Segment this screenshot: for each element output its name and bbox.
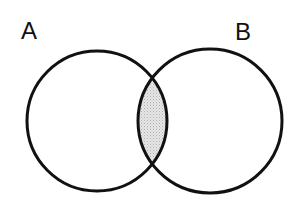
- set-b-label: B: [235, 18, 251, 45]
- venn-diagram: A B: [0, 0, 305, 208]
- set-a-label: A: [21, 17, 37, 44]
